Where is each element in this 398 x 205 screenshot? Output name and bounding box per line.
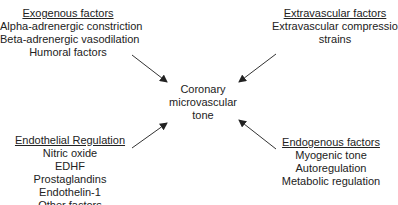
- center-line: Coronary: [158, 83, 248, 96]
- endogenous-item: Myogenic tone: [280, 149, 382, 162]
- endogenous-item: Autoregulation: [280, 162, 382, 175]
- exogenous-factors-block: Exogenous factors Alpha-adrenergic const…: [0, 7, 136, 59]
- arrow-exogenous: [132, 55, 167, 82]
- arrow-endogenous: [239, 120, 276, 149]
- endogenous-factors-block: Endogenous factors Myogenic tone Autoreg…: [280, 136, 382, 188]
- center-line: microvascular: [158, 96, 248, 109]
- exogenous-title: Exogenous factors: [0, 7, 136, 20]
- endothelial-item: Other factors: [14, 199, 126, 205]
- endothelial-regulation-block: Endothelial Regulation Nitric oxide EDHF…: [14, 134, 126, 205]
- endothelial-item: Endothelin-1: [14, 186, 126, 199]
- endogenous-item: Metabolic regulation: [280, 175, 382, 188]
- extravascular-factors-block: Extravascular factors Extravascular comp…: [272, 7, 398, 46]
- arrow-extravascular: [239, 54, 276, 82]
- exogenous-item: Alpha-adrenergic constriction: [0, 20, 136, 33]
- extravascular-item: Extravascular compression: [272, 20, 398, 33]
- extravascular-item: strains: [272, 33, 398, 46]
- center-line: tone: [158, 109, 248, 122]
- exogenous-item: Humoral factors: [0, 46, 136, 59]
- endothelial-item: Prostaglandins: [14, 173, 126, 186]
- arrow-endothelial: [132, 123, 167, 148]
- center-label: Coronary microvascular tone: [158, 83, 248, 122]
- endothelial-item: Nitric oxide: [14, 147, 126, 160]
- endothelial-title: Endothelial Regulation: [14, 134, 126, 147]
- endothelial-item: EDHF: [14, 160, 126, 173]
- exogenous-item: Beta-adrenergic vasodilation: [0, 33, 136, 46]
- endogenous-title: Endogenous factors: [280, 136, 382, 149]
- extravascular-title: Extravascular factors: [272, 7, 398, 20]
